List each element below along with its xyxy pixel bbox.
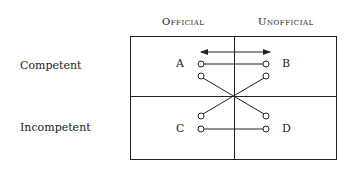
quadrant-diagram: [0, 0, 354, 169]
grid-frame: [131, 37, 337, 160]
node-label-a: A: [176, 57, 184, 70]
node-label-c: C: [176, 122, 184, 135]
node-d-bottom-circle: [263, 126, 269, 132]
node-a-top-circle: [198, 61, 204, 67]
node-c-diag-circle: [198, 113, 204, 119]
node-d-diag-circle: [263, 113, 269, 119]
node-c-bottom-circle: [198, 126, 204, 132]
node-label-b: B: [282, 57, 290, 70]
node-a-diag-circle: [198, 73, 204, 79]
node-label-d: D: [282, 122, 291, 135]
node-b-diag-circle: [263, 73, 269, 79]
node-b-top-circle: [263, 61, 269, 67]
